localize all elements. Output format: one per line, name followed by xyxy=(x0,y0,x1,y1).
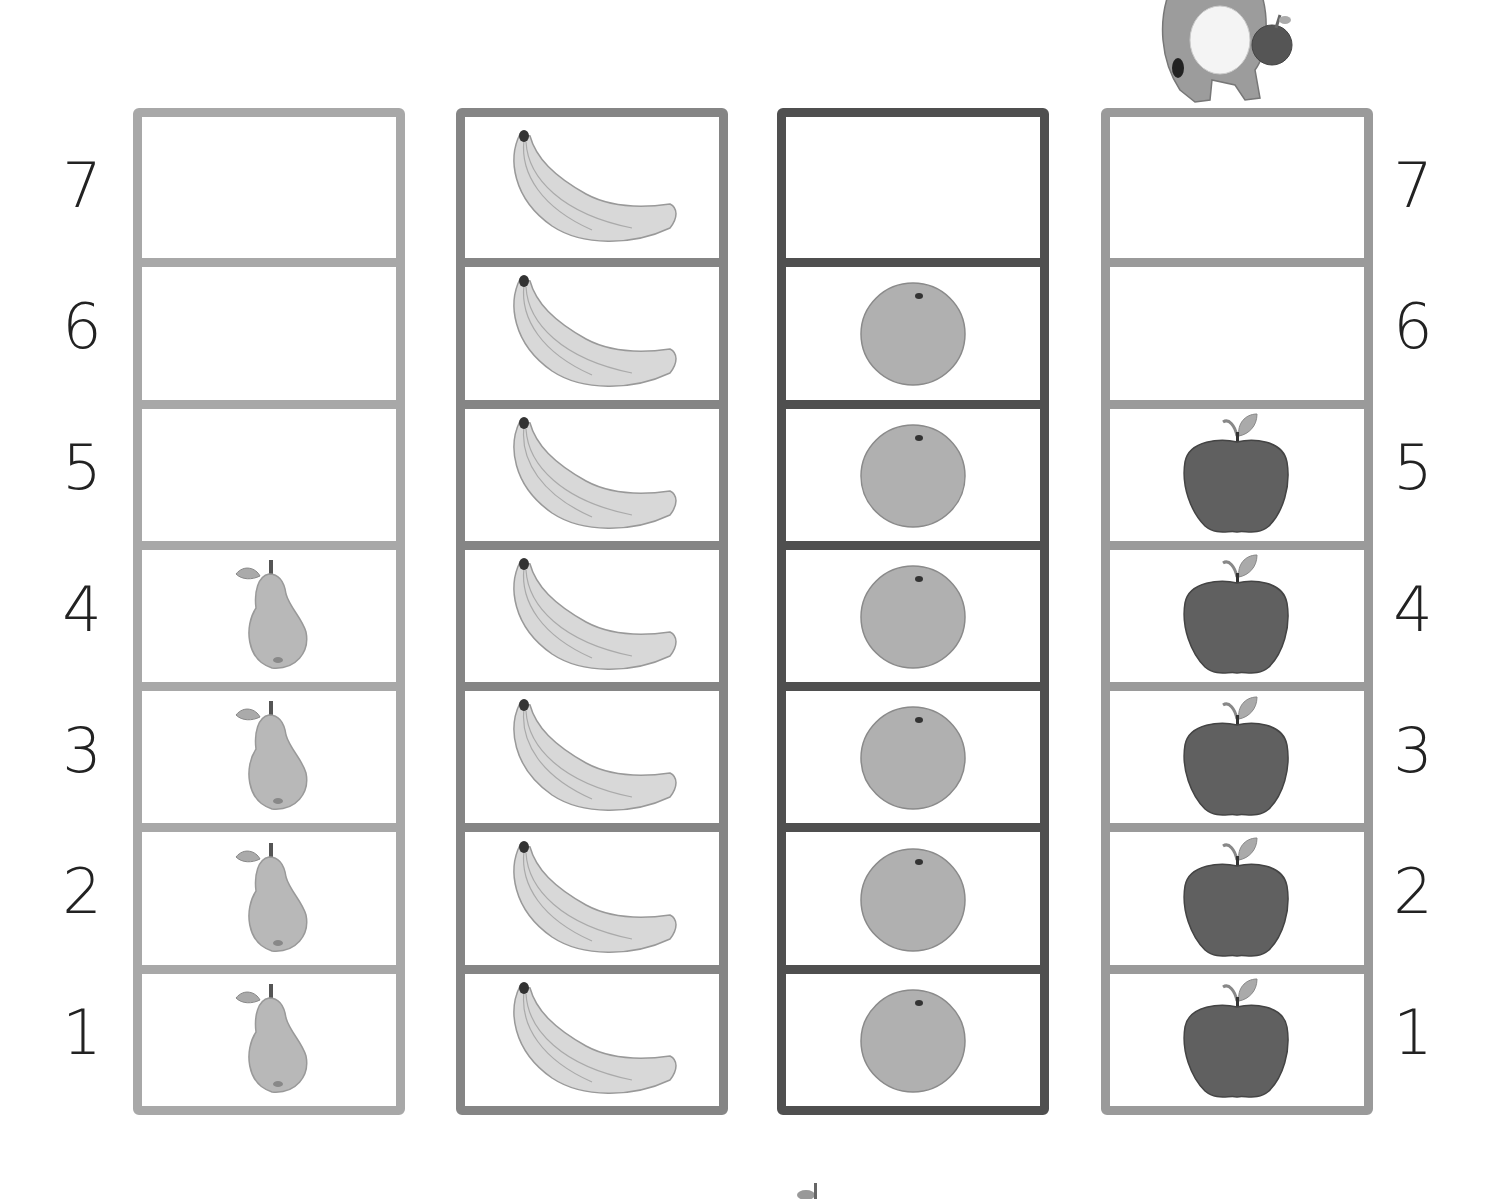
apple-cell-1 xyxy=(1110,965,1364,1106)
left-axis-number: 4 xyxy=(42,579,122,641)
orange-cell-5 xyxy=(786,400,1040,541)
orange-icon xyxy=(857,277,969,389)
left-axis-number: 6 xyxy=(42,296,122,358)
pear-cell-7 xyxy=(142,117,396,258)
right-axis-number: 1 xyxy=(1373,1002,1453,1064)
orange-cell-6 xyxy=(786,258,1040,399)
orange-icon xyxy=(857,419,969,531)
apple-icon xyxy=(1181,553,1293,678)
pear-cell-4 xyxy=(142,541,396,682)
banana-cell-4 xyxy=(465,541,719,682)
apple-icon xyxy=(1181,977,1293,1102)
left-axis-number: 2 xyxy=(42,861,122,923)
apple-icon xyxy=(1181,836,1293,961)
pear-icon xyxy=(214,980,324,1100)
banana-icon xyxy=(502,415,682,535)
orange-icon xyxy=(857,984,969,1096)
orange-cell-1 xyxy=(786,965,1040,1106)
orange-cell-4 xyxy=(786,541,1040,682)
left-axis-number: 1 xyxy=(42,1002,122,1064)
column-pear xyxy=(133,108,405,1115)
banana-cell-1 xyxy=(465,965,719,1106)
left-axis-number: 7 xyxy=(42,155,122,217)
banana-icon xyxy=(502,839,682,959)
pear-icon xyxy=(214,839,324,959)
banana-icon xyxy=(502,556,682,676)
left-axis-number: 3 xyxy=(42,720,122,782)
orange-cell-2 xyxy=(786,823,1040,964)
leaf-sprig-decoration xyxy=(792,1183,832,1199)
orange-icon xyxy=(857,560,969,672)
banana-icon xyxy=(502,128,682,248)
right-axis-number: 6 xyxy=(1373,296,1453,358)
orange-cell-7 xyxy=(786,117,1040,258)
column-apple xyxy=(1101,108,1373,1115)
banana-cell-3 xyxy=(465,682,719,823)
banana-icon xyxy=(502,697,682,817)
banana-icon xyxy=(502,273,682,393)
pear-cell-6 xyxy=(142,258,396,399)
apple-cell-3 xyxy=(1110,682,1364,823)
pear-cell-5 xyxy=(142,400,396,541)
banana-cell-2 xyxy=(465,823,719,964)
apple-cell-2 xyxy=(1110,823,1364,964)
right-axis-number: 5 xyxy=(1373,437,1453,499)
mascot-dog-holding-apple-illustration xyxy=(1150,0,1300,112)
right-axis-number: 7 xyxy=(1373,155,1453,217)
apple-cell-5 xyxy=(1110,400,1364,541)
orange-cell-3 xyxy=(786,682,1040,823)
apple-cell-6 xyxy=(1110,258,1364,399)
right-axis-number: 2 xyxy=(1373,861,1453,923)
pear-cell-3 xyxy=(142,682,396,823)
apple-icon xyxy=(1181,412,1293,537)
banana-icon xyxy=(502,980,682,1100)
column-orange xyxy=(777,108,1049,1115)
apple-icon xyxy=(1181,695,1293,820)
pear-cell-1 xyxy=(142,965,396,1106)
apple-cell-4 xyxy=(1110,541,1364,682)
pear-icon xyxy=(214,556,324,676)
column-banana xyxy=(456,108,728,1115)
pear-cell-2 xyxy=(142,823,396,964)
pear-icon xyxy=(214,697,324,817)
banana-cell-7 xyxy=(465,117,719,258)
orange-icon xyxy=(857,843,969,955)
apple-cell-7 xyxy=(1110,117,1364,258)
right-axis-number: 4 xyxy=(1373,579,1453,641)
banana-cell-6 xyxy=(465,258,719,399)
left-axis-number: 5 xyxy=(42,437,122,499)
right-axis-number: 3 xyxy=(1373,720,1453,782)
banana-cell-5 xyxy=(465,400,719,541)
orange-icon xyxy=(857,701,969,813)
